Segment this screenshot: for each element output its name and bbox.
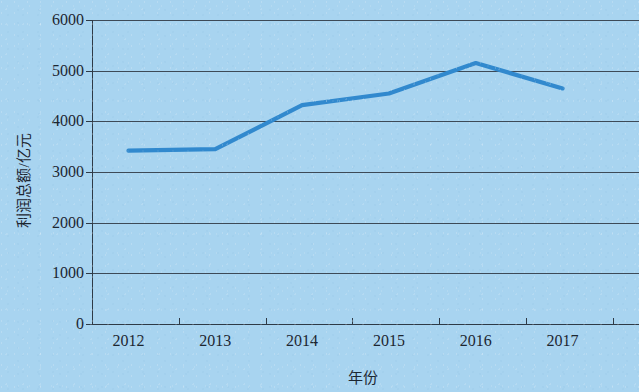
y-axis-title: 利润总额/亿元 — [12, 101, 33, 261]
x-axis-title: 年份 — [0, 366, 639, 387]
series-polyline — [128, 63, 562, 151]
data-series-line — [0, 0, 639, 392]
line-chart: 6000500040003000200010000 20122013201420… — [0, 0, 639, 392]
